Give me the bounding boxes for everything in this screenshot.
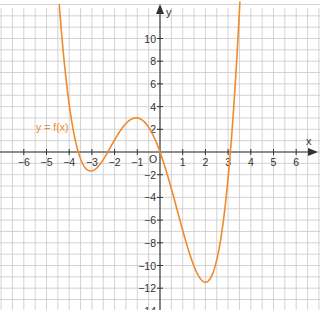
x-tick-label: −2 [109,156,121,168]
y-tick-label: −10 [138,260,156,272]
y-tick-label: 6 [150,78,156,90]
x-tick-label: 2 [202,156,208,168]
x-tick-label: −6 [18,156,30,168]
y-tick-label: 2 [150,123,156,135]
axis-ticks: −6−5−4−3−2−1123456108642−2−4−6−8−10−12−1… [18,33,299,310]
y-tick-label: −6 [144,214,156,226]
y-tick-label: 8 [150,55,156,67]
x-tick-label: −1 [131,156,143,168]
y-axis-arrow-icon [156,4,164,14]
y-tick-label: −14 [138,305,156,310]
x-tick-label: 4 [248,156,254,168]
y-axis-label: y [166,6,172,18]
x-tick-label: 6 [293,156,299,168]
y-tick-label: −12 [138,282,156,294]
y-tick-label: 4 [150,101,156,113]
y-tick-label: −4 [144,191,156,203]
x-tick-label: 5 [271,156,277,168]
x-axis-arrow-icon [308,148,318,156]
x-tick-label: −3 [86,156,98,168]
x-tick-label: 1 [180,156,186,168]
y-tick-label: −2 [144,169,156,181]
x-axis-label: x [306,135,312,147]
x-tick-label: −5 [41,156,53,168]
origin-label: O [149,153,157,165]
y-tick-label: −8 [144,237,156,249]
function-label: y = f(x) [36,121,68,133]
x-tick-label: −4 [63,156,75,168]
y-tick-label: 10 [144,33,156,45]
function-graph: x y O −6−5−4−3−2−1123456108642−2−4−6−8−1… [0,0,320,310]
